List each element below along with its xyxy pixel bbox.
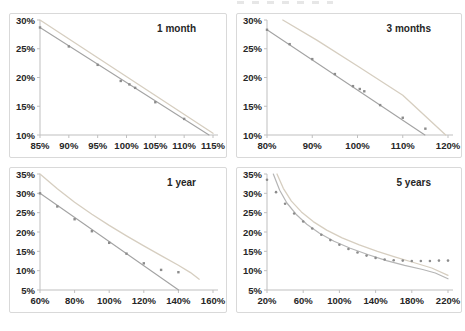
svg-text:20%: 20% <box>16 227 36 238</box>
svg-text:20%: 20% <box>243 72 263 83</box>
chart-plot-1-month: 85%90%95%100%105%110%115%10%15%20%25%30% <box>10 14 226 157</box>
svg-text:110%: 110% <box>391 140 415 151</box>
svg-text:15%: 15% <box>16 101 36 112</box>
chart-plot-3-months: 80%90%100%110%120%10%15%20%25%30% <box>237 14 461 157</box>
svg-text:105%: 105% <box>143 140 168 151</box>
chart-panel-3-months: 3 months 80%90%100%110%120%10%15%20%25%3… <box>236 13 462 158</box>
svg-text:10%: 10% <box>16 130 36 141</box>
svg-text:30%: 30% <box>243 15 263 26</box>
svg-text:115%: 115% <box>201 140 225 151</box>
svg-text:15%: 15% <box>243 246 263 257</box>
svg-text:160%: 160% <box>201 295 226 306</box>
svg-text:30%: 30% <box>16 15 36 26</box>
svg-text:90%: 90% <box>59 140 79 151</box>
svg-text:25%: 25% <box>243 43 263 54</box>
svg-text:20%: 20% <box>16 72 36 83</box>
svg-text:100%: 100% <box>345 140 370 151</box>
svg-text:100%: 100% <box>97 295 122 306</box>
svg-text:15%: 15% <box>16 246 36 257</box>
chart-panel-5-years: 5 years 20%60%100%140%180%220%5%10%15%20… <box>236 167 462 313</box>
svg-text:30%: 30% <box>243 188 263 199</box>
svg-text:10%: 10% <box>243 130 263 141</box>
chart-title-1-month: 1 month <box>157 23 196 34</box>
svg-text:60%: 60% <box>30 295 50 306</box>
svg-text:25%: 25% <box>16 43 36 54</box>
chart-plot-1-year: 60%80%100%120%140%160%5%10%15%20%25%30%3… <box>10 168 226 312</box>
chart-plot-5-years: 20%60%100%140%180%220%5%10%15%20%25%30%3… <box>237 168 461 312</box>
svg-text:20%: 20% <box>243 227 263 238</box>
svg-text:120%: 120% <box>132 295 157 306</box>
svg-text:120%: 120% <box>436 140 461 151</box>
svg-text:110%: 110% <box>172 140 196 151</box>
svg-text:5%: 5% <box>21 285 35 296</box>
svg-text:25%: 25% <box>243 207 263 218</box>
svg-text:140%: 140% <box>363 295 388 306</box>
chart-title-3-months: 3 months <box>387 23 431 34</box>
chart-panel-1-month: 1 month 85%90%95%100%105%110%115%10%15%2… <box>9 13 227 158</box>
volatility-smile-figure: 1 month 85%90%95%100%105%110%115%10%15%2… <box>0 0 465 331</box>
svg-text:10%: 10% <box>16 265 36 276</box>
svg-text:10%: 10% <box>243 265 263 276</box>
chart-title-1-year: 1 year <box>167 177 196 188</box>
svg-text:35%: 35% <box>243 169 263 180</box>
svg-text:15%: 15% <box>243 101 263 112</box>
svg-text:100%: 100% <box>327 295 352 306</box>
svg-text:80%: 80% <box>65 295 85 306</box>
cropped-text-remnant <box>237 1 333 4</box>
svg-text:30%: 30% <box>16 188 36 199</box>
svg-text:85%: 85% <box>30 140 50 151</box>
chart-panel-1-year: 1 year 60%80%100%120%140%160%5%10%15%20%… <box>9 167 227 313</box>
svg-text:25%: 25% <box>16 207 36 218</box>
svg-text:80%: 80% <box>257 140 277 151</box>
chart-title-5-years: 5 years <box>397 177 431 188</box>
svg-text:5%: 5% <box>248 285 262 296</box>
svg-text:20%: 20% <box>257 295 277 306</box>
svg-text:140%: 140% <box>166 295 191 306</box>
svg-text:35%: 35% <box>16 169 36 180</box>
svg-text:90%: 90% <box>303 140 323 151</box>
svg-text:180%: 180% <box>400 295 425 306</box>
svg-text:100%: 100% <box>114 140 139 151</box>
svg-text:60%: 60% <box>294 295 314 306</box>
svg-text:220%: 220% <box>436 295 461 306</box>
svg-text:95%: 95% <box>88 140 108 151</box>
